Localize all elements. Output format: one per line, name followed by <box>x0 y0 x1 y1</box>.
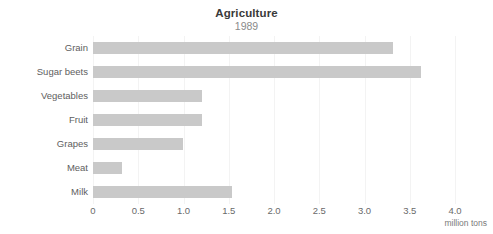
x-tick-label: 3.5 <box>403 205 416 217</box>
category-label-vegetables: Vegetables <box>4 90 88 102</box>
x-tick-label: 2.5 <box>313 205 326 217</box>
bar-fruit[interactable] <box>93 114 202 126</box>
gridline <box>455 36 456 204</box>
x-tick-label: 4.0 <box>448 205 461 217</box>
category-label-grain: Grain <box>4 42 88 54</box>
category-label-milk: Milk <box>4 186 88 198</box>
plot-area <box>93 36 455 204</box>
bar-row[interactable] <box>93 180 455 204</box>
x-axis-label: million tons <box>0 218 487 229</box>
category-label-meat: Meat <box>4 162 88 174</box>
x-tick-label: 1.5 <box>222 205 235 217</box>
bar-row[interactable] <box>93 60 455 84</box>
bar-grain[interactable] <box>93 42 393 54</box>
x-tick-label: 2.0 <box>267 205 280 217</box>
chart-subtitle: 1989 <box>0 20 493 33</box>
category-axis: GrainSugar beetsVegetablesFruitGrapesMea… <box>0 36 88 204</box>
bar-row[interactable] <box>93 156 455 180</box>
chart-title: Agriculture <box>0 6 493 20</box>
chart-title-block: Agriculture 1989 <box>0 6 493 33</box>
x-axis-ticks: 00.51.01.52.02.53.03.54.0 <box>93 205 455 219</box>
x-tick-label: 0.5 <box>132 205 145 217</box>
bar-meat[interactable] <box>93 162 122 174</box>
x-tick-label: 0 <box>90 205 95 217</box>
category-label-grapes: Grapes <box>4 138 88 150</box>
category-label-sugar-beets: Sugar beets <box>4 66 88 78</box>
bar-row[interactable] <box>93 132 455 156</box>
bar-grapes[interactable] <box>93 138 183 150</box>
category-label-fruit: Fruit <box>4 114 88 126</box>
bar-row[interactable] <box>93 108 455 132</box>
bar-vegetables[interactable] <box>93 90 202 102</box>
bar-row[interactable] <box>93 84 455 108</box>
x-tick-label: 1.0 <box>177 205 190 217</box>
bar-sugar-beets[interactable] <box>93 66 421 78</box>
bar-milk[interactable] <box>93 186 232 198</box>
bar-row[interactable] <box>93 36 455 60</box>
x-tick-label: 3.0 <box>358 205 371 217</box>
chart-container: Agriculture 1989 GrainSugar beetsVegetab… <box>0 0 493 234</box>
